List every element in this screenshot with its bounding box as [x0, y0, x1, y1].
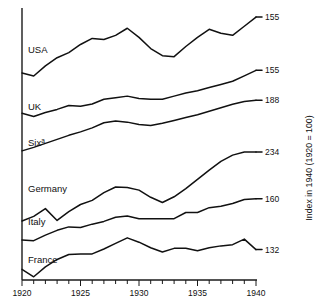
- x-axis-ticks: [22, 280, 256, 286]
- series-label-six: Sixa: [28, 137, 45, 148]
- series-name-labels: USAUKSixaGermanyItalyFrance: [28, 44, 67, 265]
- end-value-uk: 155: [265, 65, 279, 75]
- end-value-italy: 160: [265, 194, 279, 204]
- end-value-six: 188: [265, 95, 279, 105]
- series-label-usa: USA: [28, 44, 48, 55]
- x-axis-tick-labels: 19201925193019351940: [13, 288, 266, 298]
- series-label-france: France: [28, 254, 58, 265]
- series-line-uk: [22, 70, 256, 116]
- x-axis-tick-label: 1935: [188, 288, 207, 298]
- x-axis-tick-label: 1940: [247, 288, 266, 298]
- series-line-usa: [22, 17, 256, 76]
- end-value-germany: 234: [265, 147, 279, 157]
- chart-container: 19201925193019351940 155155188234160132 …: [0, 0, 327, 306]
- line-chart: 19201925193019351940 155155188234160132 …: [0, 0, 327, 306]
- y-axis-title: Index in 1940 (1920 = 100): [304, 115, 314, 220]
- x-axis-tick-label: 1920: [13, 288, 32, 298]
- x-axis-tick-label: 1925: [71, 288, 90, 298]
- x-axis-tick-label: 1930: [130, 288, 149, 298]
- series-label-uk: UK: [28, 101, 42, 112]
- footnote-marker: a: [41, 137, 45, 144]
- series-line-six: [22, 100, 256, 151]
- series-end-labels: 155155188234160132: [265, 12, 279, 255]
- end-value-france: 132: [265, 245, 279, 255]
- series-lines: [22, 17, 262, 277]
- series-label-germany: Germany: [28, 183, 67, 194]
- series-label-italy: Italy: [28, 216, 46, 227]
- end-value-usa: 155: [265, 12, 279, 22]
